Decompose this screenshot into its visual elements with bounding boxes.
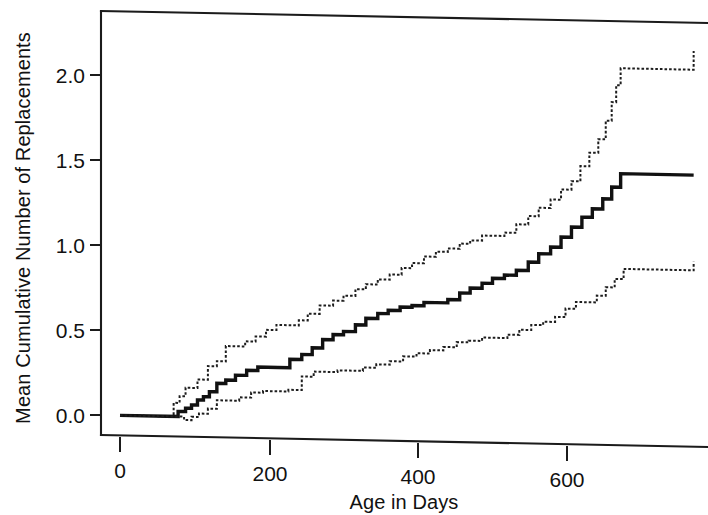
series-mcf-estimate: [120, 174, 694, 417]
frame-bottom: [101, 435, 708, 447]
x-axis-title: Age in Days: [350, 491, 459, 513]
frame-top: [101, 11, 708, 23]
x-tick-label-3: 600: [549, 468, 584, 491]
chart-canvas: 2.0 1.5 1.0 0.5 0.0 0 200 400 600 Age in…: [0, 0, 708, 515]
y-tick-label-3: 1.5: [56, 149, 85, 172]
y-tick-label-1: 0.5: [56, 319, 85, 342]
x-tick-label-0: 0: [114, 459, 126, 482]
y-tick-label-2: 1.0: [56, 234, 85, 257]
x-tick-label-1: 200: [252, 462, 287, 485]
y-axis-title: Mean Cumulative Number of Replacements: [12, 32, 34, 424]
x-axis-tick-labels: 0 200 400 600: [114, 459, 584, 491]
y-axis-ticks: [90, 75, 101, 415]
y-tick-label-0: 0.0: [56, 404, 85, 427]
y-tick-label-4: 2.0: [56, 64, 85, 87]
chart-figure: 2.0 1.5 1.0 0.5 0.0 0 200 400 600 Age in…: [0, 0, 708, 515]
data-series-group: [120, 51, 694, 420]
series-upper-confidence-limit: [120, 51, 694, 416]
x-tick-label-2: 400: [400, 465, 435, 488]
plot-frame: [101, 11, 708, 447]
y-axis-tick-labels: 2.0 1.5 1.0 0.5 0.0: [56, 64, 85, 427]
